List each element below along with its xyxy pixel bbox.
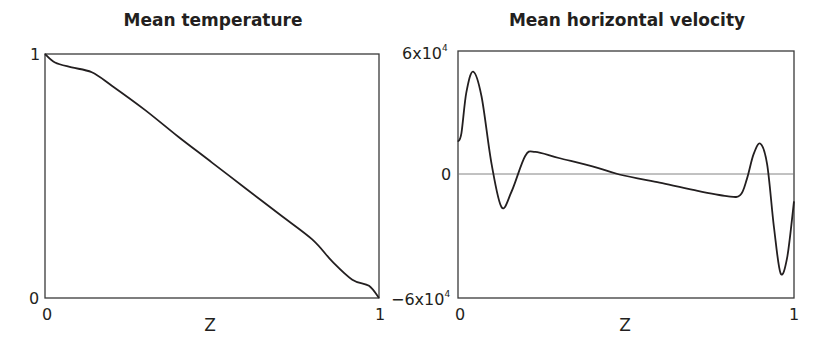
left-temperature-curve [45, 54, 379, 298]
left-plot-frame [45, 54, 379, 298]
charts-canvas [0, 0, 820, 346]
right-plot-frame [458, 51, 794, 298]
right-velocity-curve [458, 72, 794, 275]
